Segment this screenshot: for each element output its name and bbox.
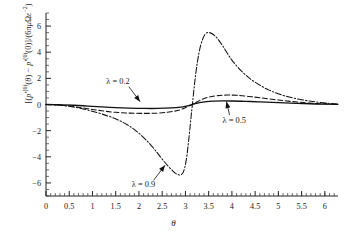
annotation-label-0: λ = 0.2 bbox=[106, 77, 129, 86]
annotation-label-2: λ = 0.9 bbox=[132, 180, 155, 189]
annotation-label-1: λ = 0.5 bbox=[222, 116, 245, 125]
annotation-arrowhead-0 bbox=[134, 95, 140, 102]
x-tick-label: 0.5 bbox=[64, 202, 74, 211]
x-tick-label: 6 bbox=[323, 202, 327, 211]
x-tick-label: 3.5 bbox=[204, 202, 214, 211]
y-tick-label: 2 bbox=[37, 74, 41, 83]
x-axis-label: θ bbox=[0, 218, 347, 228]
series-layer bbox=[46, 32, 338, 174]
y-tick-label: 6 bbox=[37, 22, 41, 31]
x-tick-label: 1 bbox=[90, 202, 94, 211]
x-tick-label: 2 bbox=[137, 202, 141, 211]
y-tick-label: −2 bbox=[32, 127, 41, 136]
chart-plot: −6−4−2024600.511.522.533.544.555.56 λ = … bbox=[0, 0, 347, 237]
y-axis-label: [(p′(0)(θ) − p′(0)(0)]/(6πμΩε−2) bbox=[22, 0, 33, 138]
axes-layer: −6−4−2024600.511.522.533.544.555.56 bbox=[32, 13, 338, 211]
x-axis-label-text: θ bbox=[171, 218, 175, 228]
x-tick-label: 5.5 bbox=[296, 202, 306, 211]
annotation-arrowhead-1 bbox=[225, 102, 230, 109]
x-tick-label: 4.5 bbox=[250, 202, 260, 211]
y-tick-label: −4 bbox=[32, 153, 41, 162]
y-axis-label-text: [(p′(0)(θ) − p′(0)(0)]/(6πμΩε−2) bbox=[23, 3, 32, 103]
figure-container: [(p′(0)(θ) − p′(0)(0)]/(6πμΩε−2) θ −6−4−… bbox=[0, 0, 347, 237]
x-tick-label: 4 bbox=[230, 202, 234, 211]
x-tick-label: 2.5 bbox=[157, 202, 167, 211]
annotations-layer: λ = 0.2λ = 0.5λ = 0.9 bbox=[106, 77, 246, 189]
y-tick-label: −6 bbox=[32, 179, 41, 188]
x-tick-label: 0 bbox=[44, 202, 48, 211]
y-tick-label: 0 bbox=[37, 101, 41, 110]
x-tick-label: 1.5 bbox=[111, 202, 121, 211]
annotation-arrowhead-2 bbox=[159, 165, 165, 172]
x-tick-label: 3 bbox=[183, 202, 187, 211]
y-tick-label: 4 bbox=[37, 48, 41, 57]
x-tick-label: 5 bbox=[276, 202, 280, 211]
